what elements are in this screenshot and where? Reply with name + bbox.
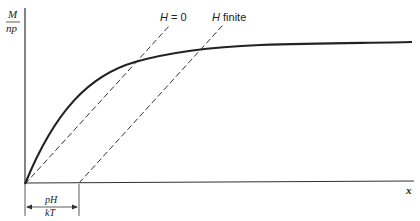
diagram-canvas: M np x H = 0 H finite pH kT bbox=[0, 0, 420, 221]
h-zero-line bbox=[25, 25, 170, 184]
svg-text:np: np bbox=[6, 22, 18, 34]
x-axis bbox=[25, 181, 414, 183]
svg-text:pH: pH bbox=[44, 194, 58, 205]
svg-text:M: M bbox=[7, 8, 18, 20]
offset-annotation: pH kT bbox=[25, 184, 79, 218]
y-axis-label: M np bbox=[6, 8, 20, 34]
x-axis-label: x bbox=[405, 184, 412, 196]
magnetization-curve bbox=[25, 42, 412, 184]
svg-text:kT: kT bbox=[45, 207, 56, 218]
h-finite-label: H finite bbox=[212, 11, 246, 23]
h-zero-label: H = 0 bbox=[160, 11, 187, 23]
